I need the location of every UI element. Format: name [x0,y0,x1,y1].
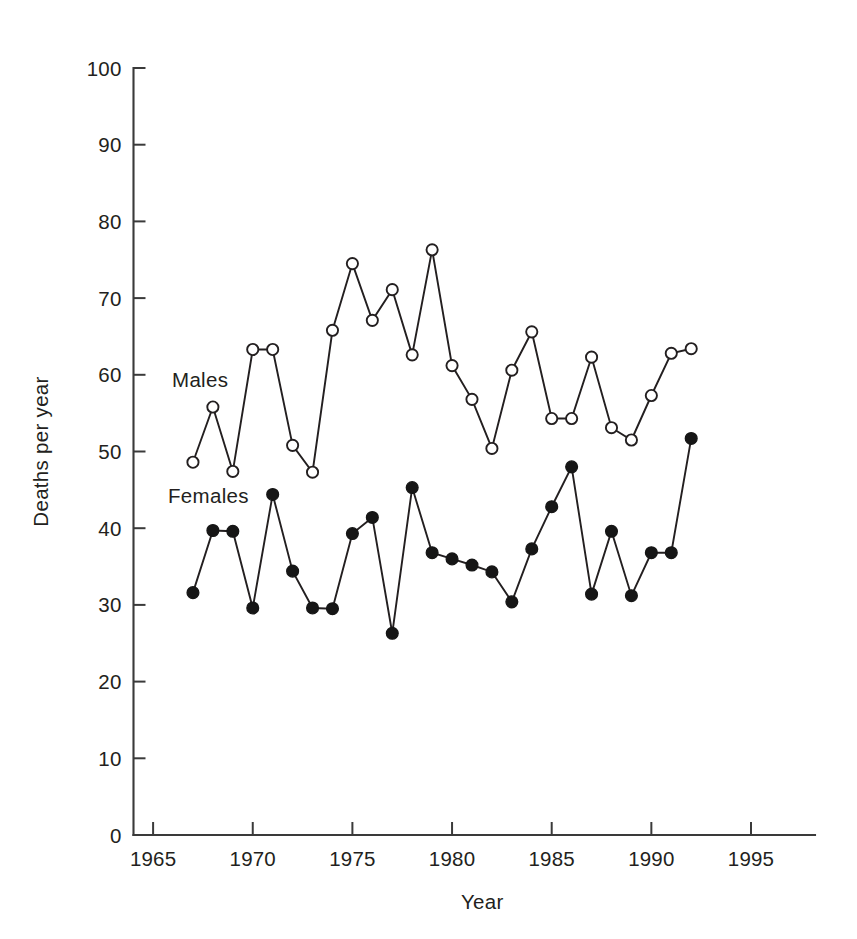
data-point-males [666,348,677,359]
data-point-males [586,352,597,363]
series-line-females [193,438,691,633]
data-point-females [566,461,578,473]
data-point-males [606,422,617,433]
data-point-males [187,457,198,468]
data-point-females [386,627,398,639]
data-point-females [645,547,657,559]
data-point-males [546,413,557,424]
y-tick-label: 80 [98,210,121,233]
x-tick-label: 1980 [429,847,475,870]
data-point-females [526,543,538,555]
data-point-males [247,344,258,355]
data-point-males [367,315,378,326]
data-point-males [287,440,298,451]
data-point-females [347,528,359,540]
data-point-females [207,525,219,537]
data-point-females [486,566,498,578]
data-point-females [466,559,478,571]
data-point-females [327,603,339,615]
data-point-females [626,590,638,602]
data-point-males [646,390,657,401]
data-point-females [606,525,618,537]
data-point-females [665,547,677,559]
series-inline-labels: MalesFemales [168,368,249,507]
data-point-females [287,565,299,577]
series-label-males: Males [172,368,228,391]
y-tick-label: 70 [98,287,121,310]
data-point-females [685,433,697,445]
data-point-females [267,489,279,501]
data-point-females [426,547,438,559]
y-tick-label: 10 [98,747,121,770]
data-point-males [446,360,457,371]
data-point-males [267,344,278,355]
data-point-females [546,501,558,513]
x-tick-label: 1995 [728,847,774,870]
data-point-females [247,602,259,614]
data-point-males [407,349,418,360]
chart-container: 0102030405060708090100 19651970197519801… [0,0,857,939]
x-axis-ticks: 1965197019751980198519901995 [130,822,774,870]
x-tick-label: 1965 [130,847,176,870]
data-point-males [466,394,477,405]
y-tick-label: 0 [110,824,122,847]
x-tick-label: 1975 [329,847,375,870]
y-tick-label: 90 [98,133,121,156]
data-point-females [506,596,518,608]
data-point-males [387,284,398,295]
data-point-males [566,413,577,424]
y-tick-label: 40 [98,517,121,540]
data-point-males [626,434,637,445]
x-tick-label: 1970 [230,847,276,870]
data-point-males [347,258,358,269]
data-point-females [187,587,199,599]
data-point-males [486,443,497,454]
data-point-males [506,365,517,376]
y-axis-ticks: 0102030405060708090100 [87,57,146,847]
line-chart-svg: 0102030405060708090100 19651970197519801… [0,0,857,939]
series-line-males [193,250,691,472]
data-point-females [446,553,458,565]
data-point-females [366,512,378,524]
y-axis-title: Deaths per year [29,376,52,526]
data-point-females [586,588,598,600]
y-tick-label: 60 [98,363,121,386]
x-tick-label: 1985 [528,847,574,870]
y-tick-label: 50 [98,440,121,463]
data-series-group [187,244,697,639]
data-point-males [686,343,697,354]
y-tick-label: 100 [87,57,122,80]
data-point-females [227,525,239,537]
data-point-males [327,325,338,336]
x-axis-title: Year [461,890,504,913]
data-point-females [406,482,418,494]
data-point-males [526,326,537,337]
y-tick-label: 30 [98,593,121,616]
data-point-males [207,401,218,412]
series-label-females: Females [168,484,249,507]
data-point-males [427,244,438,255]
data-point-females [307,602,319,614]
y-tick-label: 20 [98,670,121,693]
x-tick-label: 1990 [628,847,674,870]
data-point-males [307,467,318,478]
data-point-males [227,466,238,477]
